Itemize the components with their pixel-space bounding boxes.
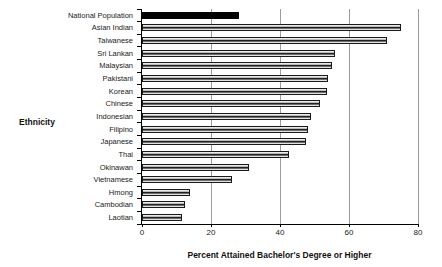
category-label-sri-lankan: Sri Lankan bbox=[0, 47, 137, 60]
bar-row bbox=[142, 34, 418, 47]
category-label-indonesian: Indonesian bbox=[0, 110, 137, 123]
bar-row bbox=[142, 72, 418, 85]
x-tick-80 bbox=[418, 224, 419, 227]
x-tick-label-40: 40 bbox=[276, 229, 285, 237]
bar-chinese bbox=[142, 100, 320, 107]
bar-chart-figure: Ethnicity National PopulationAsian India… bbox=[0, 0, 442, 267]
category-label-japanese: Japanese bbox=[0, 135, 137, 148]
bar-japanese bbox=[142, 138, 306, 145]
bar-row bbox=[142, 110, 418, 123]
bar-taiwanese bbox=[142, 37, 387, 44]
bar-cambodian bbox=[142, 201, 185, 208]
x-tick-40 bbox=[280, 224, 281, 227]
category-label-okinawan: Okinawan bbox=[0, 161, 137, 174]
bar-laotian bbox=[142, 214, 182, 221]
x-axis-title: Percent Attained Bachelor's Degree or Hi… bbox=[141, 250, 418, 260]
bar-vietnamese bbox=[142, 176, 232, 183]
x-tick-label-0: 0 bbox=[140, 229, 144, 237]
category-label-korean: Korean bbox=[0, 85, 137, 98]
x-tick-label-20: 20 bbox=[207, 229, 216, 237]
x-tick-20 bbox=[211, 224, 212, 227]
bar-hmong bbox=[142, 189, 190, 196]
bar-row bbox=[142, 199, 418, 212]
bar-row bbox=[142, 173, 418, 186]
bar-row bbox=[142, 60, 418, 73]
category-label-chinese: Chinese bbox=[0, 97, 137, 110]
category-label-taiwanese: Taiwanese bbox=[0, 34, 137, 47]
category-label-thai: Thai bbox=[0, 148, 137, 161]
category-label-national-population: National Population bbox=[0, 9, 137, 22]
bar-row bbox=[142, 97, 418, 110]
x-tick-60 bbox=[349, 224, 350, 227]
category-label-filipino: Filipino bbox=[0, 123, 137, 136]
x-tick-label-60: 60 bbox=[345, 229, 354, 237]
plot-area: 020406080 bbox=[141, 9, 418, 225]
bar-row bbox=[142, 85, 418, 98]
bar-row bbox=[142, 47, 418, 60]
bar-rows bbox=[142, 9, 418, 224]
bar-row bbox=[142, 22, 418, 35]
category-labels: National PopulationAsian IndianTaiwanese… bbox=[0, 9, 137, 224]
bar-row bbox=[142, 211, 418, 224]
gridline-80 bbox=[418, 9, 419, 224]
bar-national-population bbox=[142, 12, 239, 19]
bar-korean bbox=[142, 88, 327, 95]
bar-pakistani bbox=[142, 75, 328, 82]
category-label-vietnamese: Vietnamese bbox=[0, 173, 137, 186]
bar-row bbox=[142, 123, 418, 136]
bar-row bbox=[142, 161, 418, 174]
bar-asian-indian bbox=[142, 24, 401, 31]
bar-row bbox=[142, 148, 418, 161]
bar-indonesian bbox=[142, 113, 311, 120]
bar-malaysian bbox=[142, 62, 332, 69]
bar-okinawan bbox=[142, 164, 249, 171]
bar-row bbox=[142, 186, 418, 199]
category-label-laotian: Laotian bbox=[0, 211, 137, 224]
x-tick-0 bbox=[142, 224, 143, 227]
bar-row bbox=[142, 9, 418, 22]
x-tick-label-80: 80 bbox=[414, 229, 423, 237]
category-label-asian-indian: Asian Indian bbox=[0, 22, 137, 35]
category-label-pakistani: Pakistani bbox=[0, 72, 137, 85]
category-label-cambodian: Cambodian bbox=[0, 199, 137, 212]
bar-thai bbox=[142, 151, 289, 158]
category-label-hmong: Hmong bbox=[0, 186, 137, 199]
bar-filipino bbox=[142, 126, 308, 133]
bar-row bbox=[142, 135, 418, 148]
bar-sri-lankan bbox=[142, 50, 335, 57]
category-label-malaysian: Malaysian bbox=[0, 60, 137, 73]
